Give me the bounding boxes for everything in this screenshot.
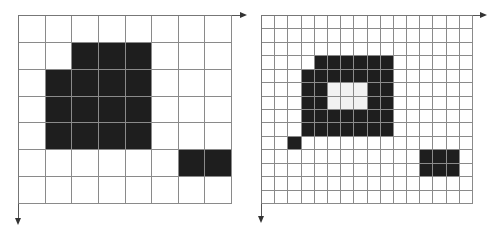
- empty-cell: [447, 16, 460, 29]
- empty-cell: [126, 16, 153, 43]
- empty-cell: [460, 123, 473, 136]
- empty-cell: [407, 70, 420, 83]
- empty-cell: [315, 137, 328, 150]
- empty-cell: [407, 177, 420, 190]
- empty-cell: [394, 137, 407, 150]
- empty-cell: [447, 56, 460, 69]
- empty-cell: [420, 97, 433, 110]
- filled-cell: [381, 123, 394, 136]
- empty-cell: [288, 150, 301, 163]
- empty-cell: [288, 123, 301, 136]
- empty-cell: [433, 29, 446, 42]
- empty-cell: [262, 177, 275, 190]
- empty-cell: [46, 177, 73, 204]
- empty-cell: [420, 177, 433, 190]
- empty-cell: [381, 150, 394, 163]
- filled-cell: [368, 83, 381, 96]
- empty-cell: [315, 164, 328, 177]
- empty-cell: [381, 29, 394, 42]
- filled-cell: [381, 70, 394, 83]
- empty-cell: [275, 43, 288, 56]
- empty-cell: [394, 16, 407, 29]
- empty-cell: [152, 97, 179, 124]
- empty-cell: [368, 43, 381, 56]
- filled-cell: [420, 164, 433, 177]
- empty-cell: [275, 123, 288, 136]
- empty-cell: [262, 123, 275, 136]
- empty-cell: [341, 43, 354, 56]
- filled-cell: [72, 97, 99, 124]
- empty-cell: [381, 43, 394, 56]
- empty-cell: [460, 110, 473, 123]
- empty-cell: [288, 83, 301, 96]
- empty-cell: [262, 16, 275, 29]
- filled-cell: [315, 83, 328, 96]
- empty-cell: [179, 123, 206, 150]
- empty-cell: [288, 97, 301, 110]
- y-axis-arrow-icon: [258, 216, 264, 223]
- empty-cell: [179, 16, 206, 43]
- empty-cell: [99, 177, 126, 204]
- empty-cell: [288, 43, 301, 56]
- empty-cell: [302, 137, 315, 150]
- empty-cell: [315, 16, 328, 29]
- filled-cell: [341, 123, 354, 136]
- empty-cell: [152, 150, 179, 177]
- empty-cell: [433, 43, 446, 56]
- empty-cell: [275, 150, 288, 163]
- empty-cell: [328, 177, 341, 190]
- filled-cell: [302, 110, 315, 123]
- empty-cell: [341, 164, 354, 177]
- empty-cell: [420, 43, 433, 56]
- empty-cell: [354, 137, 367, 150]
- empty-cell: [420, 29, 433, 42]
- empty-cell: [99, 150, 126, 177]
- filled-cell: [99, 97, 126, 124]
- empty-cell: [433, 110, 446, 123]
- empty-cell: [328, 29, 341, 42]
- empty-cell: [288, 56, 301, 69]
- empty-cell: [99, 16, 126, 43]
- empty-cell: [328, 43, 341, 56]
- empty-cell: [302, 191, 315, 204]
- empty-cell: [205, 16, 232, 43]
- empty-cell: [262, 137, 275, 150]
- empty-cell: [205, 70, 232, 97]
- filled-cell: [205, 150, 232, 177]
- filled-cell: [315, 70, 328, 83]
- empty-cell: [394, 83, 407, 96]
- empty-cell: [126, 177, 153, 204]
- empty-cell: [381, 16, 394, 29]
- empty-cell: [407, 43, 420, 56]
- filled-cell: [315, 110, 328, 123]
- hole-cell: [341, 83, 354, 96]
- empty-cell: [460, 70, 473, 83]
- hole-cell: [328, 83, 341, 96]
- filled-cell: [288, 137, 301, 150]
- filled-cell: [315, 123, 328, 136]
- filled-cell: [368, 110, 381, 123]
- filled-cell: [302, 97, 315, 110]
- empty-cell: [315, 43, 328, 56]
- empty-cell: [460, 83, 473, 96]
- empty-cell: [368, 29, 381, 42]
- empty-cell: [354, 43, 367, 56]
- empty-cell: [302, 29, 315, 42]
- empty-cell: [447, 191, 460, 204]
- empty-cell: [341, 16, 354, 29]
- empty-cell: [433, 177, 446, 190]
- x-axis-arrow-icon: [240, 12, 247, 18]
- empty-cell: [179, 97, 206, 124]
- empty-cell: [288, 191, 301, 204]
- empty-cell: [394, 177, 407, 190]
- empty-cell: [288, 70, 301, 83]
- fine-grid: [261, 15, 473, 204]
- empty-cell: [19, 16, 46, 43]
- empty-cell: [420, 110, 433, 123]
- empty-cell: [354, 177, 367, 190]
- empty-cell: [394, 191, 407, 204]
- filled-cell: [72, 123, 99, 150]
- filled-cell: [368, 56, 381, 69]
- empty-cell: [288, 177, 301, 190]
- empty-cell: [460, 43, 473, 56]
